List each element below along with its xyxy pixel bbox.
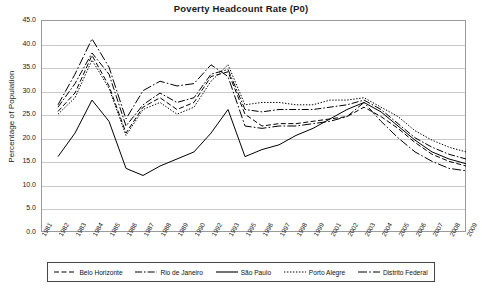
chart-title: Poverty Headcount Rate (P0) xyxy=(0,3,482,14)
legend-label: Distrito Federal xyxy=(383,269,428,276)
y-axis-tick-label: 5.0 xyxy=(0,204,36,211)
legend-line-swatch xyxy=(54,268,76,276)
y-axis-tick-label: 40.0 xyxy=(0,40,36,47)
legend-line-swatch xyxy=(135,268,157,276)
legend-label: Rio de Janeiro xyxy=(160,269,203,276)
y-axis-tick-label: 15.0 xyxy=(0,157,36,164)
y-axis-tick-label: 35.0 xyxy=(0,63,36,70)
legend-label: Porto Alegre xyxy=(309,269,345,276)
legend-line-swatch xyxy=(284,268,306,276)
y-axis-tick-label: 10.0 xyxy=(0,181,36,188)
y-axis-tick-label: 30.0 xyxy=(0,87,36,94)
y-axis-tick-label: 20.0 xyxy=(0,134,36,141)
legend-line-swatch xyxy=(216,268,238,276)
legend-label: Belo Horizonte xyxy=(79,269,122,276)
legend-item[interactable]: Distrito Federal xyxy=(358,268,428,276)
legend-item[interactable]: Belo Horizonte xyxy=(54,268,122,276)
data-lines xyxy=(41,20,466,232)
legend-label: São Paulo xyxy=(241,269,271,276)
legend-item[interactable]: Porto Alegre xyxy=(284,268,345,276)
legend: Belo HorizonteRio de JaneiroSão PauloPor… xyxy=(47,262,435,282)
legend-line-swatch xyxy=(358,268,380,276)
chart-container: Poverty Headcount Rate (P0) Percentage o… xyxy=(0,0,482,288)
series-line xyxy=(58,60,466,152)
y-axis-tick-label: 45.0 xyxy=(0,16,36,23)
y-axis-tick-label: 0.0 xyxy=(0,228,36,235)
legend-item[interactable]: São Paulo xyxy=(216,268,271,276)
x-axis-tick-label: 2009 xyxy=(465,221,478,237)
y-axis-tick-label: 25.0 xyxy=(0,110,36,117)
legend-item[interactable]: Rio de Janeiro xyxy=(135,268,203,276)
